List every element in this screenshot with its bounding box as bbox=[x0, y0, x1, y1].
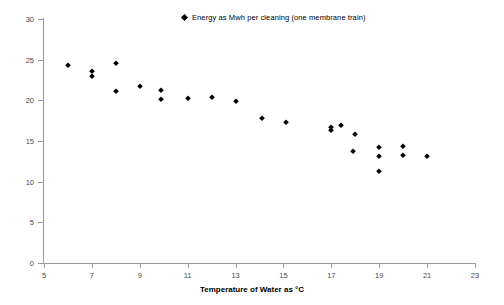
x-tick-label: 9 bbox=[128, 271, 152, 280]
y-tick bbox=[38, 263, 43, 264]
x-tick bbox=[475, 263, 476, 268]
y-tick-label: 5 bbox=[6, 218, 34, 227]
y-tick bbox=[38, 60, 43, 61]
x-tick bbox=[140, 263, 141, 268]
x-tick bbox=[379, 263, 380, 268]
x-tick-label: 11 bbox=[176, 271, 200, 280]
x-tick-label: 7 bbox=[80, 271, 104, 280]
x-tick-label: 19 bbox=[367, 271, 391, 280]
y-tick bbox=[38, 141, 43, 142]
x-tick bbox=[331, 263, 332, 268]
y-tick-label: 25 bbox=[6, 56, 34, 65]
x-tick-label: 23 bbox=[463, 271, 487, 280]
x-tick bbox=[44, 263, 45, 268]
y-tick-label: 30 bbox=[6, 15, 34, 24]
x-axis-title: Temperature of Water as °C bbox=[0, 285, 504, 294]
x-tick bbox=[427, 263, 428, 268]
y-tick bbox=[38, 182, 43, 183]
x-tick-label: 21 bbox=[415, 271, 439, 280]
y-tick-label: 15 bbox=[6, 137, 34, 146]
y-tick bbox=[38, 100, 43, 101]
y-tick-label: 20 bbox=[6, 96, 34, 105]
x-tick bbox=[92, 263, 93, 268]
plot-area bbox=[44, 19, 475, 263]
x-tick-label: 5 bbox=[32, 271, 56, 280]
x-tick bbox=[236, 263, 237, 268]
x-tick bbox=[283, 263, 284, 268]
x-tick bbox=[188, 263, 189, 268]
y-tick-label: 0 bbox=[6, 259, 34, 268]
y-tick bbox=[38, 222, 43, 223]
y-tick bbox=[38, 19, 43, 20]
x-tick-label: 13 bbox=[224, 271, 248, 280]
x-tick-label: 17 bbox=[319, 271, 343, 280]
scatter-chart: Energy as Mwh per cleaning (one membrane… bbox=[0, 0, 504, 305]
x-axis-line bbox=[43, 263, 476, 264]
x-tick-label: 15 bbox=[271, 271, 295, 280]
y-tick-label: 10 bbox=[6, 178, 34, 187]
